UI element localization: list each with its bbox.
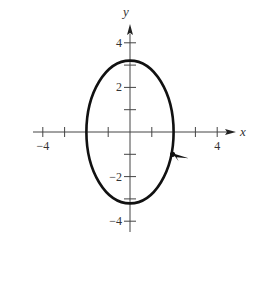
y-tick-label: −4 <box>109 214 122 228</box>
y-axis-arrow-icon <box>127 24 133 35</box>
y-tick-label: −2 <box>109 170 122 184</box>
ellipse-plot: yx−4442−2−4 <box>0 0 262 282</box>
y-tick-label: 2 <box>116 80 122 94</box>
axis-labels: yx−4442−2−4 <box>36 4 246 228</box>
y-axis-label: y <box>121 4 129 19</box>
x-tick-label: −4 <box>36 139 49 153</box>
axes <box>33 24 236 232</box>
x-axis-label: x <box>239 124 246 139</box>
direction-arrow-icon <box>173 153 189 161</box>
y-tick-label: 4 <box>116 36 122 50</box>
x-tick-label: 4 <box>214 139 220 153</box>
